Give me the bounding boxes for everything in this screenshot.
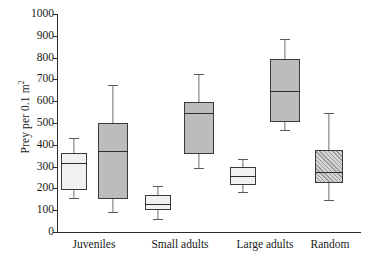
- median-line: [184, 113, 214, 114]
- box-rect: [145, 195, 171, 210]
- x-axis-category-label-juveniles: Juveniles: [73, 238, 116, 250]
- box-plot-large-adults-white: [230, 0, 256, 271]
- box-rect: [98, 123, 128, 199]
- lower-whisker-cap: [69, 198, 79, 199]
- box-plot-random-hatched: [315, 0, 343, 271]
- median-line: [315, 172, 343, 173]
- median-line: [145, 204, 171, 205]
- upper-whisker-cap: [108, 85, 118, 86]
- y-axis-tick-mark: [53, 14, 57, 15]
- lower-whisker-cap: [280, 130, 290, 131]
- median-line: [230, 176, 256, 177]
- box-plot-juveniles-white: [61, 0, 87, 271]
- y-axis-tick-mark: [53, 123, 57, 124]
- lower-whisker-line: [112, 199, 113, 212]
- lower-whisker-cap: [324, 200, 334, 201]
- upper-whisker-cap: [194, 74, 204, 75]
- median-line: [270, 91, 300, 92]
- lower-whisker-line: [328, 183, 329, 200]
- upper-whisker-line: [112, 85, 113, 123]
- lower-whisker-line: [284, 122, 285, 130]
- x-axis-category-label-small-adults: Small adults: [151, 238, 208, 250]
- box-rect: [184, 102, 214, 154]
- box-plot-small-adults-gray: [184, 0, 214, 271]
- lower-whisker-line: [242, 185, 243, 192]
- y-axis-tick-mark: [53, 101, 57, 102]
- y-axis-tick-mark: [53, 210, 57, 211]
- box-rect: [61, 153, 87, 190]
- box-plot-small-adults-white: [145, 0, 171, 271]
- lower-whisker-line: [157, 210, 158, 219]
- upper-whisker-cap: [238, 159, 248, 160]
- x-axis-category-label-large-adults: Large adults: [237, 238, 294, 250]
- box-plot-juveniles-gray: [98, 0, 128, 271]
- y-axis-tick-mark: [53, 232, 57, 233]
- box-rect: [315, 150, 343, 183]
- y-axis-tick-mark: [53, 58, 57, 59]
- y-axis-tick-mark: [53, 188, 57, 189]
- upper-whisker-line: [73, 138, 74, 153]
- upper-whisker-line: [198, 74, 199, 102]
- y-axis-tick-mark: [53, 145, 57, 146]
- lower-whisker-cap: [238, 192, 248, 193]
- y-axis-tick-mark: [53, 79, 57, 80]
- lower-whisker-cap: [194, 168, 204, 169]
- upper-whisker-line: [328, 113, 329, 150]
- lower-whisker-cap: [108, 212, 118, 213]
- upper-whisker-cap: [153, 186, 163, 187]
- upper-whisker-cap: [69, 138, 79, 139]
- median-line: [61, 163, 87, 164]
- y-axis-tick-mark: [53, 36, 57, 37]
- lower-whisker-cap: [153, 219, 163, 220]
- upper-whisker-cap: [280, 39, 290, 40]
- upper-whisker-cap: [324, 113, 334, 114]
- median-line: [98, 151, 128, 152]
- upper-whisker-line: [284, 39, 285, 59]
- lower-whisker-line: [73, 190, 74, 198]
- x-axis-category-label-random: Random: [311, 238, 350, 250]
- box-plot-chart: Prey per 0.1 m2 100090080070060050040030…: [0, 0, 369, 271]
- y-axis-tick-mark: [53, 167, 57, 168]
- lower-whisker-line: [198, 154, 199, 168]
- plot-area: [0, 0, 369, 271]
- box-plot-large-adults-gray: [270, 0, 300, 271]
